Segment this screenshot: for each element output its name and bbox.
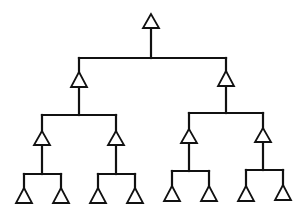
triangle-node-icon (238, 186, 254, 201)
triangle-node-icon (34, 131, 50, 145)
triangle-node-icon (127, 188, 143, 203)
triangle-node-icon (71, 72, 87, 87)
triangle-node-icon (275, 185, 291, 200)
triangle-node-icon (16, 188, 32, 203)
triangle-node-icon (201, 186, 217, 201)
triangle-node-icon (90, 188, 106, 203)
triangle-node-icon (218, 71, 234, 86)
tree-diagram (0, 0, 306, 216)
triangle-node-icon (143, 14, 159, 28)
tree-edges (24, 28, 283, 190)
triangle-node-icon (255, 128, 271, 142)
triangle-node-icon (181, 129, 197, 143)
triangle-node-icon (108, 131, 124, 145)
triangle-node-icon (164, 186, 180, 201)
triangle-node-icon (53, 188, 69, 203)
